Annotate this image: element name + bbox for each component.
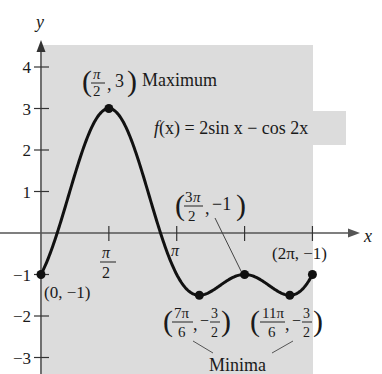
y-axis-label: y	[34, 12, 44, 32]
svg-text:π: π	[193, 189, 201, 205]
svg-text:): )	[236, 188, 246, 222]
label-start-point: (0, −1)	[44, 283, 90, 302]
svg-text:(: (	[82, 64, 92, 98]
key-point-marker	[308, 270, 317, 279]
svg-text:,: ,	[285, 314, 290, 334]
svg-text:−: −	[292, 312, 301, 329]
y-tick-label: −3	[13, 349, 31, 368]
svg-text:(: (	[250, 304, 260, 338]
chart-figure: y x −3−2−11234 π 2 π ( π 2 , 3 ) Maximum…	[0, 0, 382, 374]
svg-text:3: 3	[211, 306, 218, 321]
svg-text:,: ,	[107, 74, 112, 94]
svg-text:π: π	[93, 66, 101, 82]
y-tick-label: −2	[13, 307, 31, 326]
svg-text:,: ,	[205, 198, 210, 218]
label-end-point: (2π, −1)	[272, 244, 327, 263]
y-tick-label: 3	[23, 100, 32, 119]
svg-text:2: 2	[211, 325, 218, 340]
svg-text:−: −	[200, 312, 209, 329]
function-label: f(x) = 2sin x − cos 2x	[154, 118, 308, 139]
svg-text:7π: 7π	[174, 305, 190, 321]
svg-text:2: 2	[102, 264, 110, 281]
y-tick-label: 1	[23, 183, 32, 202]
svg-text:): )	[313, 304, 323, 338]
svg-text:11π: 11π	[262, 305, 284, 321]
key-point-marker	[240, 270, 249, 279]
svg-text:f(x) = 2sin x − cos 2x: f(x) = 2sin x − cos 2x	[154, 118, 308, 139]
svg-text:6: 6	[268, 324, 276, 340]
svg-text:2: 2	[93, 83, 101, 99]
svg-text:Minima: Minima	[209, 355, 266, 374]
svg-text:3: 3	[303, 306, 310, 321]
svg-text:6: 6	[178, 324, 186, 340]
key-point-marker	[104, 104, 113, 113]
svg-text:2: 2	[303, 325, 310, 340]
x-axis-arrow-icon	[348, 229, 360, 238]
function-plot: y x −3−2−11234 π 2 π ( π 2 , 3 ) Maximum…	[0, 0, 382, 374]
maximum-annotation: Maximum	[142, 70, 217, 90]
svg-text:2: 2	[188, 208, 196, 224]
svg-text:−1: −1	[212, 194, 231, 214]
svg-text:(: (	[175, 188, 185, 222]
svg-text:(: (	[163, 304, 173, 338]
x-tick-label-pi: π	[171, 242, 180, 259]
svg-text:,: ,	[193, 314, 198, 334]
key-point-marker	[195, 291, 204, 300]
y-tick-label: 4	[23, 58, 32, 77]
x-axis-label: x	[363, 226, 372, 246]
svg-text:): )	[221, 304, 231, 338]
key-point-marker	[37, 270, 46, 279]
svg-text:): )	[127, 64, 137, 98]
svg-text:π: π	[102, 244, 111, 261]
y-tick-label: −1	[13, 266, 31, 285]
svg-text:3: 3	[115, 71, 124, 91]
y-tick-label: 2	[23, 141, 32, 160]
key-point-marker	[285, 291, 294, 300]
svg-text:3: 3	[185, 189, 193, 205]
